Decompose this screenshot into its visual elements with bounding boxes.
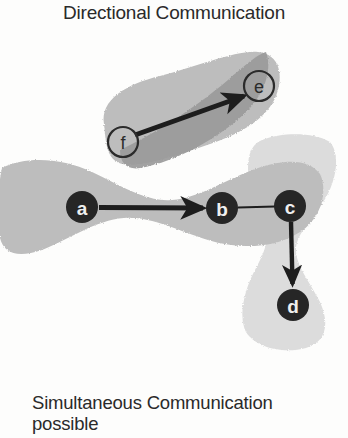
node-c-label: c: [285, 197, 296, 218]
node-a-label: a: [77, 198, 88, 219]
node-b-label: b: [216, 199, 228, 220]
node-a[interactable]: a: [66, 191, 98, 223]
caption-line-1: Simultaneous Communication: [32, 392, 273, 413]
node-d[interactable]: d: [277, 289, 309, 321]
node-c[interactable]: c: [274, 190, 306, 222]
node-b[interactable]: b: [206, 192, 238, 224]
caption-line-2: possible: [32, 413, 273, 434]
figure-title: Directional Communication: [0, 2, 348, 24]
edge-a-b: [99, 208, 203, 209]
edge-b-c: [238, 207, 275, 208]
edge-c-d: [291, 222, 293, 284]
diagram-canvas: a b c d e: [0, 28, 348, 386]
diagram-svg: a b c d e: [0, 28, 348, 386]
node-d-label: d: [287, 296, 299, 317]
figure-root: Directional Communication: [0, 0, 348, 438]
figure-caption: Simultaneous Communication possible: [32, 392, 273, 434]
node-e-label: e: [254, 77, 264, 97]
